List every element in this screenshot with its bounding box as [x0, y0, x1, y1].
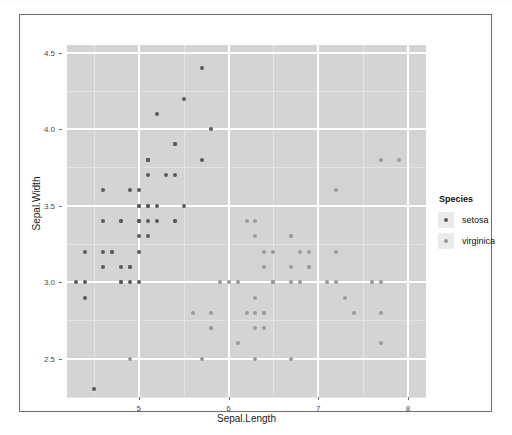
gridline-major-vertical — [407, 45, 409, 397]
data-point-setosa — [173, 219, 177, 223]
gridline-major-vertical — [317, 45, 319, 397]
data-point-virginica — [289, 234, 293, 238]
x-tick-label: 7 — [316, 404, 320, 413]
gridline-minor-horizontal — [67, 244, 426, 245]
gridline-minor-horizontal — [67, 320, 426, 321]
y-tick-mark — [59, 359, 62, 360]
y-tick-label: 2.5 — [44, 354, 55, 363]
data-point-setosa — [155, 219, 159, 223]
data-point-virginica — [298, 250, 302, 254]
y-tick-mark — [59, 53, 62, 54]
y-tick-label: 4.0 — [44, 125, 55, 134]
data-point-setosa — [119, 265, 123, 269]
data-point-setosa — [128, 188, 132, 192]
x-tick-mark — [408, 397, 409, 400]
data-point-setosa — [173, 173, 177, 177]
top-edge-strip — [0, 0, 512, 5]
data-point-setosa — [137, 219, 141, 223]
data-point-virginica — [289, 280, 293, 284]
x-tick-mark — [139, 397, 140, 400]
x-tick-mark — [318, 397, 319, 400]
data-point-setosa — [164, 173, 168, 177]
data-point-setosa — [146, 234, 150, 238]
data-point-setosa — [101, 250, 105, 254]
legend: Species setosavirginica — [438, 194, 508, 253]
chart-root: 2.53.03.54.04.5 5678 Sepal.Length Sepal.… — [0, 0, 512, 435]
y-tick-mark — [59, 282, 62, 283]
gridline-major-horizontal — [67, 358, 426, 360]
data-point-setosa — [200, 66, 204, 70]
data-point-setosa — [101, 265, 105, 269]
gridline-major-horizontal — [67, 205, 426, 207]
data-point-setosa — [137, 280, 141, 284]
data-point-setosa — [92, 387, 96, 391]
data-point-virginica — [325, 280, 329, 284]
data-point-setosa — [101, 219, 105, 223]
legend-swatch-icon — [438, 212, 454, 228]
y-tick-mark — [59, 129, 62, 130]
data-point-virginica — [262, 311, 266, 315]
data-point-virginica — [352, 311, 356, 315]
data-point-virginica — [253, 326, 257, 330]
data-point-virginica — [334, 280, 338, 284]
data-point-setosa — [209, 127, 213, 131]
data-point-virginica — [253, 296, 257, 300]
data-point-setosa — [119, 280, 123, 284]
data-point-virginica — [307, 250, 311, 254]
data-point-virginica — [200, 357, 204, 361]
data-point-setosa — [74, 280, 78, 284]
legend-item-setosa[interactable]: setosa — [438, 211, 508, 229]
legend-swatch-icon — [438, 233, 454, 249]
y-tick-label: 3.5 — [44, 201, 55, 210]
legend-item-virginica[interactable]: virginica — [438, 232, 508, 250]
data-point-virginica — [191, 311, 195, 315]
data-point-setosa — [182, 97, 186, 101]
data-point-setosa — [182, 204, 186, 208]
data-point-setosa — [200, 158, 204, 162]
data-point-setosa — [83, 296, 87, 300]
data-point-setosa — [146, 158, 150, 162]
data-point-virginica — [271, 250, 275, 254]
data-point-virginica — [379, 280, 383, 284]
y-axis-title: Sepal.Width — [31, 144, 42, 264]
legend-entries: setosavirginica — [438, 211, 508, 250]
data-point-virginica — [289, 265, 293, 269]
data-point-virginica — [253, 357, 257, 361]
data-point-virginica — [236, 280, 240, 284]
gridline-minor-horizontal — [67, 167, 426, 168]
data-point-setosa — [137, 234, 141, 238]
data-point-virginica — [209, 311, 213, 315]
gridline-minor-vertical — [94, 45, 95, 397]
data-point-virginica — [397, 158, 401, 162]
x-tick-label: 8 — [406, 404, 410, 413]
data-point-virginica — [218, 280, 222, 284]
data-point-virginica — [262, 326, 266, 330]
data-point-virginica — [253, 219, 257, 223]
data-point-setosa — [137, 188, 141, 192]
data-point-virginica — [245, 311, 249, 315]
legend-title: Species — [439, 194, 508, 204]
data-point-virginica — [236, 341, 240, 345]
data-point-virginica — [253, 234, 257, 238]
gridline-minor-vertical — [363, 45, 364, 397]
x-axis-title: Sepal.Length — [67, 413, 426, 424]
data-point-setosa — [146, 173, 150, 177]
data-point-setosa — [137, 250, 141, 254]
y-tick-label: 3.0 — [44, 278, 55, 287]
data-point-setosa — [83, 280, 87, 284]
data-point-virginica — [334, 188, 338, 192]
data-point-virginica — [262, 265, 266, 269]
data-point-setosa — [155, 112, 159, 116]
data-point-virginica — [307, 265, 311, 269]
data-point-virginica — [379, 341, 383, 345]
legend-label: setosa — [462, 215, 489, 225]
data-point-virginica — [271, 280, 275, 284]
y-tick-mark — [59, 206, 62, 207]
data-point-virginica — [253, 311, 257, 315]
gridline-minor-vertical — [273, 45, 274, 397]
data-point-setosa — [128, 265, 132, 269]
y-tick-label: 4.5 — [44, 48, 55, 57]
data-point-virginica — [379, 158, 383, 162]
x-tick-mark — [229, 397, 230, 400]
data-point-setosa — [146, 219, 150, 223]
